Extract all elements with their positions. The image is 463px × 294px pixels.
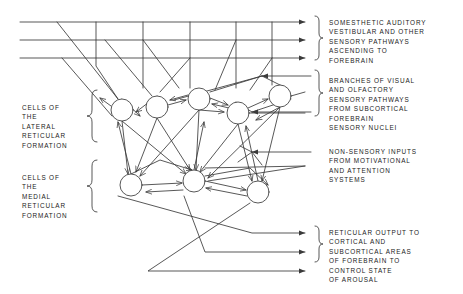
neuron-soma — [183, 170, 205, 192]
nonsensory-inputs — [238, 146, 311, 165]
left-braces — [87, 90, 97, 212]
neuron-soma — [188, 88, 210, 110]
brace-somesthetic — [315, 16, 323, 60]
right-braces — [315, 16, 323, 262]
ascending-sensory-pathways — [20, 22, 305, 58]
label-nonsensory-inputs: NON-SENSORY INPUTS FROM MOTIVATIONAL AND… — [329, 147, 417, 185]
neuron-soma — [269, 85, 291, 107]
neuron-soma — [120, 174, 142, 196]
neuron-soma — [146, 96, 168, 118]
label-somesthetic-pathways: SOMESTHETIC AUDITORY VESTIBULAR AND OTHE… — [329, 18, 426, 65]
label-cells-lateral-reticular-formation: CELLS OF THE LATERAL RETICULAR FORMATION — [22, 103, 68, 150]
brace-cells-lateral — [87, 90, 97, 142]
label-cells-medial-reticular-formation: CELLS OF THE MEDIAL RETICULAR FORMATION — [22, 173, 68, 220]
brace-branches — [315, 70, 323, 116]
reticular-output-arrows — [118, 196, 305, 271]
lateral-neurons — [111, 85, 291, 124]
neuron-soma — [247, 181, 269, 203]
lateral-to-medial-fibers — [122, 107, 280, 181]
label-sensory-branches: BRANCHES OF VISUAL AND OLFACTORY SENSORY… — [329, 76, 415, 132]
neuron-soma — [227, 102, 249, 124]
brace-cells-medial — [87, 160, 97, 212]
label-reticular-output: RETICULAR OUTPUT TO CORTICAL AND SUBCORT… — [329, 228, 420, 284]
figure-canvas: SOMESTHETIC AUDITORY VESTIBULAR AND OTHE… — [0, 0, 463, 294]
neuron-soma — [111, 99, 133, 121]
brace-output — [315, 226, 323, 262]
